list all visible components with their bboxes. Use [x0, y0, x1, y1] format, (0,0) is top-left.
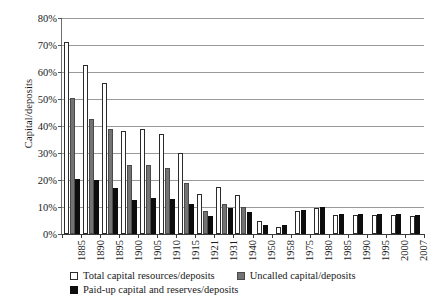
x-tick-mark	[214, 234, 215, 238]
x-tick-label-1915: 1915	[190, 240, 201, 261]
legend-item-paidup: Paid-up capital and reserves/deposits	[70, 284, 238, 295]
y-tick-label: 50%	[38, 94, 57, 105]
bar-total	[276, 227, 281, 234]
x-tick-mark	[119, 234, 120, 238]
x-tick-mark	[138, 234, 139, 238]
bar-total	[83, 65, 88, 234]
bar-total	[216, 187, 221, 234]
x-axis-line	[61, 234, 424, 235]
x-tick-label-1895: 1895	[114, 240, 125, 261]
x-tick-label-2007: 2007	[418, 240, 429, 261]
legend-label-uncalled: Uncalled capital/deposits	[250, 270, 356, 281]
x-tick-label-1905: 1905	[152, 240, 163, 261]
x-tick-mark	[405, 234, 406, 238]
legend-item-uncalled: Uncalled capital/deposits	[237, 270, 356, 281]
bar-group	[214, 18, 233, 234]
bar-total	[314, 208, 319, 234]
bar-paidup	[301, 210, 306, 234]
bar-paidup	[132, 200, 137, 234]
x-tick-label-1995: 1995	[380, 240, 391, 261]
x-tick-label-1931: 1931	[228, 240, 239, 261]
legend-row-2: Paid-up capital and reserves/deposits	[70, 284, 420, 295]
bar-total	[257, 221, 262, 235]
y-tick-label: 0%	[43, 229, 57, 240]
bar-group	[253, 18, 272, 234]
x-tick-label-1910: 1910	[171, 240, 182, 261]
x-tick-mark	[424, 234, 425, 238]
x-tick-mark	[272, 234, 273, 238]
bar-uncalled	[89, 119, 94, 234]
x-tick-label-1900: 1900	[133, 240, 144, 261]
legend-swatch-total-icon	[70, 272, 78, 280]
bar-uncalled	[203, 211, 208, 234]
bar-group	[157, 18, 176, 234]
bar-total	[410, 216, 415, 234]
plot-area: 0%10%20%30%40%50%60%70%80% 1885189018951…	[62, 18, 424, 234]
bar-group	[329, 18, 348, 234]
bar-paidup	[320, 207, 325, 234]
bar-total	[333, 215, 338, 234]
bar-total	[197, 194, 202, 235]
bar-paidup	[170, 199, 175, 234]
bar-group	[176, 18, 195, 234]
bar-uncalled	[184, 183, 189, 234]
x-tick-mark	[81, 234, 82, 238]
x-tick-label-1958: 1958	[285, 240, 296, 261]
bar-total	[235, 195, 240, 234]
bar-uncalled	[108, 129, 113, 234]
x-tick-mark	[310, 234, 311, 238]
bar-paidup	[208, 216, 213, 234]
x-tick-mark	[386, 234, 387, 238]
x-tick-label-1980: 1980	[323, 240, 334, 261]
bar-paidup	[113, 188, 118, 234]
x-tick-mark	[157, 234, 158, 238]
bar-total	[178, 153, 183, 234]
bar-group	[100, 18, 119, 234]
x-tick-label-1950: 1950	[266, 240, 277, 261]
x-tick-label-1990: 1990	[361, 240, 372, 261]
x-tick-mark	[253, 234, 254, 238]
bar-uncalled	[70, 98, 75, 234]
y-tick-label: 10%	[38, 202, 57, 213]
bar-group	[81, 18, 100, 234]
bar-group	[348, 18, 367, 234]
bar-paidup	[151, 198, 156, 234]
x-tick-label-2000: 2000	[399, 240, 410, 261]
bar-uncalled	[241, 207, 246, 234]
bar-group	[291, 18, 310, 234]
x-tick-mark	[195, 234, 196, 238]
x-tick-mark	[176, 234, 177, 238]
legend-label-total: Total capital resources/deposits	[83, 270, 215, 281]
legend-label-paidup: Paid-up capital and reserves/deposits	[83, 284, 238, 295]
x-tick-label-1885: 1885	[76, 240, 87, 261]
chart-figure: Capital/deposits 0%10%20%30%40%50%60%70%…	[0, 0, 433, 306]
bar-group	[62, 18, 81, 234]
bar-paidup	[247, 212, 252, 234]
bar-paidup	[282, 225, 287, 234]
y-tick-label: 80%	[38, 13, 57, 24]
bar-total	[121, 131, 126, 234]
x-tick-mark	[348, 234, 349, 238]
bar-group	[138, 18, 157, 234]
bar-total	[295, 211, 300, 234]
bar-paidup	[358, 214, 363, 234]
x-tick-mark	[62, 234, 63, 238]
bar-group	[233, 18, 252, 234]
bar-group	[367, 18, 386, 234]
bar-total	[102, 83, 107, 234]
bar-uncalled	[127, 165, 132, 234]
legend-item-total: Total capital resources/deposits	[70, 270, 215, 281]
x-tick-label-1975: 1975	[304, 240, 315, 261]
y-tick-label: 60%	[38, 67, 57, 78]
bar-group	[310, 18, 329, 234]
y-tick-label: 40%	[38, 121, 57, 132]
bar-uncalled	[222, 204, 227, 234]
legend-swatch-paidup-icon	[70, 286, 78, 294]
bar-group	[386, 18, 405, 234]
x-tick-mark	[233, 234, 234, 238]
bar-total	[353, 215, 358, 234]
bar-total	[372, 215, 377, 234]
bar-paidup	[94, 180, 99, 234]
x-tick-mark	[100, 234, 101, 238]
bar-paidup	[396, 214, 401, 234]
